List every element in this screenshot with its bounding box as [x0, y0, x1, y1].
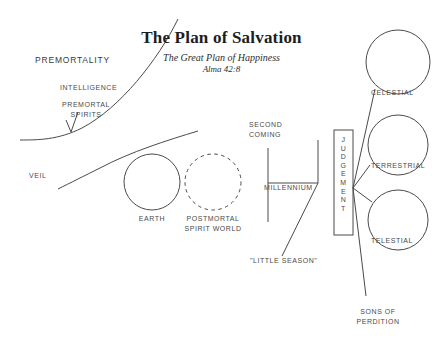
ray-to-sons-of-perdition	[353, 188, 366, 296]
label-celestial: CELESTIAL	[371, 88, 414, 98]
postmortal-spirit-world-circle	[185, 154, 241, 210]
veil-arc	[58, 131, 198, 189]
label-little-season: "LITTLE SEASON"	[250, 256, 317, 266]
label-premortal-spirits: PREMORTAL SPIRITS	[62, 100, 110, 119]
page-subtitle: The Great Plan of Happiness	[163, 52, 280, 63]
ray-to-telestial	[353, 188, 372, 202]
label-millennium: MILLENNIUM	[264, 183, 313, 193]
label-second-coming: SECOND COMING	[249, 120, 282, 139]
scripture-reference: Alma 42:8	[203, 64, 241, 74]
plan-of-salvation-diagram: The Plan of Salvation The Great Plan of …	[0, 0, 443, 350]
label-sons-of-perdition: SONS OF PERDITION	[356, 307, 399, 326]
label-premortality: PREMORTALITY	[35, 56, 110, 66]
label-earth: EARTH	[139, 214, 165, 224]
earth-circle	[124, 154, 180, 210]
little-season-line	[282, 183, 318, 256]
label-telestial: TELESTIAL	[371, 236, 413, 246]
label-judgement: J U D G E M E N T	[337, 136, 350, 213]
label-terrestrial: TERRESTRIAL	[371, 161, 425, 171]
label-intelligence: INTELLIGENCE	[60, 83, 117, 93]
label-veil: VEIL	[29, 171, 46, 181]
label-postmortal-spirit-world: POSTMORTAL SPIRIT WORLD	[184, 214, 241, 233]
page-title: The Plan of Salvation	[141, 28, 302, 48]
celestial-circle	[366, 30, 430, 94]
